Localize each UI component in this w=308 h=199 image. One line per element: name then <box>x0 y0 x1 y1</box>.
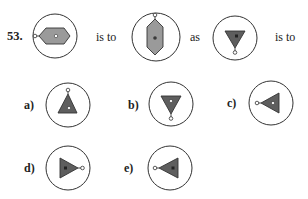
option-c-label: c) <box>227 96 236 110</box>
option-e-label: e) <box>124 161 133 175</box>
option-b-label: b) <box>128 98 139 112</box>
stem-figure-3 <box>212 15 258 61</box>
stem-figure-1 <box>32 13 78 59</box>
option-d-figure[interactable] <box>45 145 91 191</box>
center-dot <box>153 36 157 40</box>
pendant-circle <box>233 51 237 55</box>
pendant-circle <box>153 166 157 170</box>
pendant-circle <box>255 101 259 105</box>
connector-is-to-2: is to <box>275 30 295 44</box>
connector-as: as <box>190 30 200 44</box>
pendant-circle <box>33 34 37 38</box>
center-dot <box>172 167 175 170</box>
option-a-label: a) <box>24 98 34 112</box>
center-dot <box>54 34 57 37</box>
triangle-icon <box>261 93 279 113</box>
triangle-icon <box>60 158 78 178</box>
center-dot <box>169 99 172 102</box>
option-c-figure[interactable] <box>248 80 294 126</box>
triangle-icon <box>159 158 178 178</box>
pendant-circle <box>66 88 70 92</box>
triangle-icon <box>225 31 245 48</box>
connector-is-to-1: is to <box>96 30 116 44</box>
stem-figure-2 <box>131 12 181 62</box>
pendant-circle <box>169 117 173 121</box>
option-a-figure[interactable] <box>45 82 91 128</box>
option-e-figure[interactable] <box>147 145 193 191</box>
question-number: 53. <box>7 29 23 43</box>
center-dot <box>271 101 274 104</box>
option-b-figure[interactable] <box>148 81 194 127</box>
center-dot <box>235 35 238 38</box>
option-d-label: d) <box>24 161 35 175</box>
pendant-circle <box>81 166 85 170</box>
pendant-circle <box>153 13 157 17</box>
center-dot <box>64 167 67 170</box>
center-dot <box>67 106 70 109</box>
triangle-icon <box>161 96 181 114</box>
triangle-icon <box>58 94 77 113</box>
